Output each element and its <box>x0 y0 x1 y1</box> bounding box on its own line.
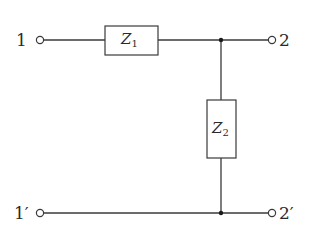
junction-top-dot <box>219 38 223 42</box>
circuit-diagram: 1 1′ 2 2′ Z1 Z2 <box>0 0 322 250</box>
impedance-z1-label: Z1 <box>121 32 138 49</box>
z2-subscript: 2 <box>222 127 228 138</box>
circuit-schematic <box>0 0 322 250</box>
terminal-2-label: 2 <box>279 32 290 49</box>
terminal-1-prime-icon <box>36 209 43 216</box>
terminal-1-prime-label: 1′ <box>14 205 29 222</box>
terminal-1-icon <box>36 36 43 43</box>
terminal-2-icon <box>268 36 275 43</box>
junction-bottom-dot <box>219 211 223 215</box>
impedance-z2-label: Z2 <box>212 121 229 138</box>
terminal-2-prime-icon <box>268 209 275 216</box>
z1-symbol: Z <box>121 30 131 48</box>
terminal-2-prime-label: 2′ <box>279 205 294 222</box>
z1-subscript: 1 <box>131 38 137 49</box>
terminal-1-label: 1 <box>16 32 27 49</box>
z2-symbol: Z <box>212 119 222 137</box>
